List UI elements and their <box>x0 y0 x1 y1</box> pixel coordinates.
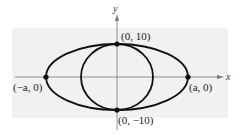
y-axis-arrow-icon <box>115 14 119 21</box>
label-bottom-point: (0, −10) <box>118 114 154 127</box>
point-right <box>185 74 190 79</box>
x-axis-label: x <box>225 71 231 82</box>
label-right-point: (a, 0) <box>189 81 213 94</box>
background-panel <box>12 28 228 118</box>
label-left-point: (−a, 0) <box>13 81 43 94</box>
ellipse-circle-diagram: x y (0, 10) (0, −10) (−a, 0) (a, 0) <box>0 0 242 134</box>
label-top-point: (0, 10) <box>121 30 151 43</box>
point-bottom <box>114 107 119 112</box>
y-axis-label: y <box>112 3 118 14</box>
point-top <box>114 41 119 46</box>
point-left <box>43 74 48 79</box>
